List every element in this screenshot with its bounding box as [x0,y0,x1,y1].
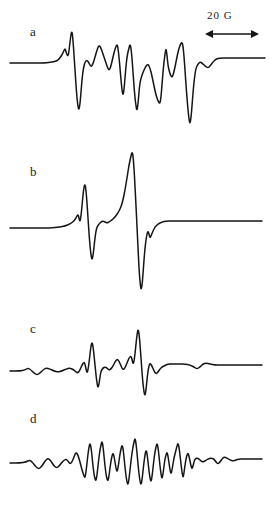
spectrum-path-b [10,153,262,289]
spectrum-trace-a [0,0,275,140]
spectrum-trace-b [0,140,275,305]
spectrum-path-d [10,439,262,484]
spectrum-path-a [10,32,265,123]
epr-spectra-figure: 20 G a b c d [0,0,275,508]
spectrum-trace-c [0,305,275,410]
spectrum-trace-d [0,410,275,508]
spectrum-path-c [10,330,262,395]
